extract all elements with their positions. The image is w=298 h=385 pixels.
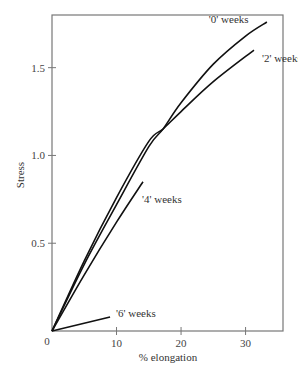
y-tick-label: 0.5 (31, 237, 45, 249)
x-tick-label: 20 (176, 337, 188, 349)
plot-frame (52, 15, 283, 331)
series-label: '0' weeks (209, 13, 249, 25)
series-label: '4' weeks (142, 193, 182, 205)
stress-elongation-chart: 1020300.51.01.5 '0' weeks'2' weeks'4' we… (0, 0, 298, 385)
series-labels: '0' weeks'2' weeks'4' weeks'6' weeks (116, 13, 298, 319)
series-label: '2' weeks (262, 52, 298, 64)
data-curves (52, 22, 267, 331)
curve-0-weeks (52, 22, 267, 331)
series-label: '6' weeks (116, 307, 156, 319)
curve-2-weeks (52, 50, 254, 331)
x-tick-label: 30 (240, 337, 252, 349)
y-tick-label: 1.5 (31, 62, 45, 74)
y-tick-label: 1.0 (31, 149, 45, 161)
y-axis-label: Stress (14, 162, 26, 188)
x-axis-label: % elongation (139, 351, 198, 363)
curve-6-weeks (52, 317, 110, 331)
plot-border (52, 15, 283, 331)
origin-label: 0 (44, 335, 50, 347)
x-tick-label: 10 (111, 337, 123, 349)
